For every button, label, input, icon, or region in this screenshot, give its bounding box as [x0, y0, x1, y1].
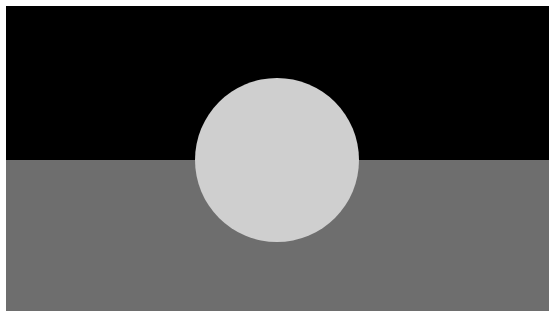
flag: [6, 6, 549, 311]
flag-disc: [195, 78, 359, 242]
